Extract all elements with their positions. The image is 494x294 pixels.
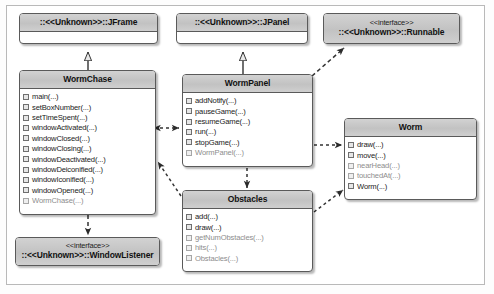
method-icon — [23, 125, 29, 131]
member-label: windowDeactivated(...) — [32, 155, 106, 164]
class-box-jpanel[interactable]: ::<<Unknown>>::JPanel — [176, 13, 308, 44]
member-label: main(...) — [32, 92, 59, 101]
member-row[interactable]: Worm(...) — [348, 181, 474, 191]
member-label: Obstacles(...) — [195, 254, 238, 263]
member-label: setTimeSpent(...) — [32, 113, 87, 122]
member-row[interactable]: main(...) — [23, 92, 153, 102]
member-label: windowDeiconified(...) — [32, 165, 103, 174]
member-row[interactable]: WormPanel(...) — [186, 148, 310, 158]
member-row[interactable]: windowDeiconified(...) — [23, 164, 153, 174]
class-members-worm: draw(...) move(...) nearHead(...) touche… — [345, 137, 476, 195]
member-row[interactable]: windowClosing(...) — [23, 144, 153, 154]
member-label: touchedAt(...) — [357, 171, 401, 180]
class-members-wormpanel: addNotify(...) pauseGame(...) resumeGame… — [183, 93, 312, 161]
class-box-runnable[interactable]: <<interface>> ::<<Unknown>>::Runnable — [323, 13, 460, 44]
member-label: setBoxNumber(...) — [32, 103, 91, 112]
method-icon — [186, 108, 192, 114]
method-icon — [23, 115, 29, 121]
member-row[interactable]: windowDeactivated(...) — [23, 154, 153, 164]
member-label: windowClosed(...) — [32, 134, 90, 143]
method-icon — [186, 129, 192, 135]
class-members-wormchase: main(...) setBoxNumber(...) setTimeSpent… — [20, 89, 155, 209]
member-row[interactable]: windowOpened(...) — [23, 185, 153, 195]
member-row[interactable]: windowClosed(...) — [23, 133, 153, 143]
method-icon — [348, 163, 354, 169]
method-icon — [186, 235, 192, 241]
class-name-runnable: ::<<Unknown>>::Runnable — [339, 27, 445, 37]
member-row[interactable]: hits(...) — [186, 243, 310, 253]
class-box-worm[interactable]: Worm draw(...) move(...) nearHead(...) t… — [344, 118, 477, 200]
class-title-runnable: <<interface>> ::<<Unknown>>::Runnable — [324, 14, 459, 43]
method-icon — [186, 139, 192, 145]
member-label: windowClosing(...) — [32, 144, 91, 153]
member-label: add(...) — [195, 212, 218, 221]
member-row[interactable]: move(...) — [348, 150, 474, 160]
member-label: WormPanel(...) — [195, 148, 244, 157]
member-row[interactable]: windowActivated(...) — [23, 123, 153, 133]
method-icon — [348, 142, 354, 148]
member-label: resumeGame(...) — [195, 117, 250, 126]
member-label: move(...) — [357, 151, 386, 160]
member-label: WormChase(...) — [32, 196, 83, 205]
method-icon — [23, 167, 29, 173]
class-title-obstacles: Obstacles — [183, 191, 312, 209]
class-box-windowlistener[interactable]: <<interface>> ::<<Unknown>>::WindowListe… — [15, 237, 160, 266]
member-row[interactable]: run(...) — [186, 127, 310, 137]
class-name-jpanel: ::<<Unknown>>::JPanel — [195, 17, 290, 27]
method-icon — [186, 98, 192, 104]
class-box-wormchase[interactable]: WormChase main(...) setBoxNumber(...) se… — [19, 70, 156, 215]
method-icon — [23, 146, 29, 152]
method-icon — [186, 214, 192, 220]
member-label: windowOpened(...) — [32, 186, 93, 195]
member-label: nearHead(...) — [357, 161, 400, 170]
class-name-windowlistener: ::<<Unknown>>::WindowListener — [21, 250, 153, 260]
class-name-worm: Worm — [399, 122, 423, 132]
member-label: pauseGame(...) — [195, 107, 246, 116]
class-body-jframe — [20, 32, 157, 41]
member-label: addNotify(...) — [195, 96, 236, 105]
class-title-windowlistener: <<interface>> ::<<Unknown>>::WindowListe… — [16, 238, 159, 265]
member-row[interactable]: draw(...) — [348, 140, 474, 150]
method-icon — [23, 177, 29, 183]
class-box-wormpanel[interactable]: WormPanel addNotify(...) pauseGame(...) … — [182, 74, 313, 167]
class-name-jframe: ::<<Unknown>>::JFrame — [40, 17, 138, 27]
method-icon — [23, 187, 29, 193]
method-icon — [348, 152, 354, 158]
member-row[interactable]: draw(...) — [186, 222, 310, 232]
member-row[interactable]: add(...) — [186, 212, 310, 222]
member-label: draw(...) — [357, 140, 384, 149]
member-row[interactable]: nearHead(...) — [348, 160, 474, 170]
class-title-worm: Worm — [345, 119, 476, 137]
class-name-wormpanel: WormPanel — [225, 78, 271, 88]
member-label: run(...) — [195, 127, 216, 136]
stereotype-interface-windowlistener: <<interface>> — [18, 241, 157, 250]
member-label: windowActivated(...) — [32, 123, 97, 132]
class-box-obstacles[interactable]: Obstacles add(...) draw(...) getNumObsta… — [182, 190, 313, 272]
member-row[interactable]: touchedAt(...) — [348, 171, 474, 181]
method-icon — [186, 119, 192, 125]
method-icon — [23, 94, 29, 100]
method-icon — [186, 150, 192, 156]
member-row[interactable]: getNumObstacles(...) — [186, 232, 310, 242]
method-icon — [348, 183, 354, 189]
class-title-wormpanel: WormPanel — [183, 75, 312, 93]
class-title-jpanel: ::<<Unknown>>::JPanel — [177, 14, 307, 32]
member-row[interactable]: resumeGame(...) — [186, 116, 310, 126]
member-row[interactable]: addNotify(...) — [186, 96, 310, 106]
class-title-wormchase: WormChase — [20, 71, 155, 89]
member-row[interactable]: pauseGame(...) — [186, 106, 310, 116]
class-box-jframe[interactable]: ::<<Unknown>>::JFrame — [19, 13, 158, 44]
method-icon — [348, 173, 354, 179]
method-icon — [186, 255, 192, 261]
member-row[interactable]: setBoxNumber(...) — [23, 102, 153, 112]
class-body-jpanel — [177, 32, 307, 41]
member-row[interactable]: WormChase(...) — [23, 196, 153, 206]
member-label: getNumObstacles(...) — [195, 233, 264, 242]
member-row[interactable]: Obstacles(...) — [186, 253, 310, 263]
member-row[interactable]: windowIconified(...) — [23, 175, 153, 185]
method-icon — [186, 245, 192, 251]
method-icon — [23, 135, 29, 141]
class-name-obstacles: Obstacles — [228, 194, 268, 204]
member-row[interactable]: setTimeSpent(...) — [23, 112, 153, 122]
member-row[interactable]: stopGame(...) — [186, 137, 310, 147]
